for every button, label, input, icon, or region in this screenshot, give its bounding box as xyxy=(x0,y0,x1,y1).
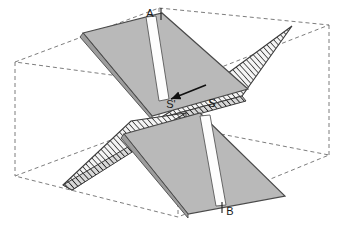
label-a: A xyxy=(146,7,154,19)
label-s-prime: S' xyxy=(166,98,175,110)
figure-root: A S' S B xyxy=(0,0,346,243)
label-b: B xyxy=(226,205,233,217)
label-s: S xyxy=(208,97,215,109)
geometry-figure: A S' S B xyxy=(0,0,346,243)
